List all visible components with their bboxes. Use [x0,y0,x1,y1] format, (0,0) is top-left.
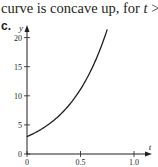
x-tick-label: 0.5 [76,158,86,167]
y-tick-label: 0 [18,150,22,159]
y-tick-label: 5 [18,121,22,130]
y-tick-label: 10 [14,92,22,101]
exponential-chart: ty00.51.005101520 [0,0,158,167]
x-axis-label: t [149,142,152,152]
exponential-curve [27,29,107,136]
x-tick-label: 1.0 [129,158,139,167]
y-axis-arrow-icon [25,25,30,32]
y-tick-label: 20 [14,34,22,43]
y-tick-label: 15 [14,63,22,72]
y-axis-label: y [18,23,23,33]
x-axis-arrow-icon [145,152,152,157]
x-tick-label: 0 [25,158,29,167]
